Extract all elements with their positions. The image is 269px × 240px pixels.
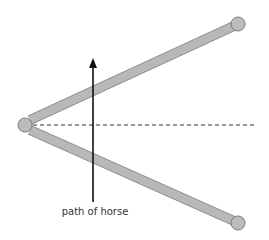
joints — [18, 17, 245, 230]
lower-end-joint — [231, 216, 245, 230]
path-of-horse-label: path of horse — [62, 206, 129, 217]
pivot-joint — [18, 118, 32, 132]
rods — [30, 26, 234, 221]
arrow-up-icon — [89, 58, 97, 202]
upper-rod — [30, 26, 234, 120]
lower-rod — [30, 130, 234, 221]
upper-end-joint — [231, 17, 245, 31]
mechanism-diagram — [0, 0, 269, 240]
arrow-head — [89, 58, 97, 68]
